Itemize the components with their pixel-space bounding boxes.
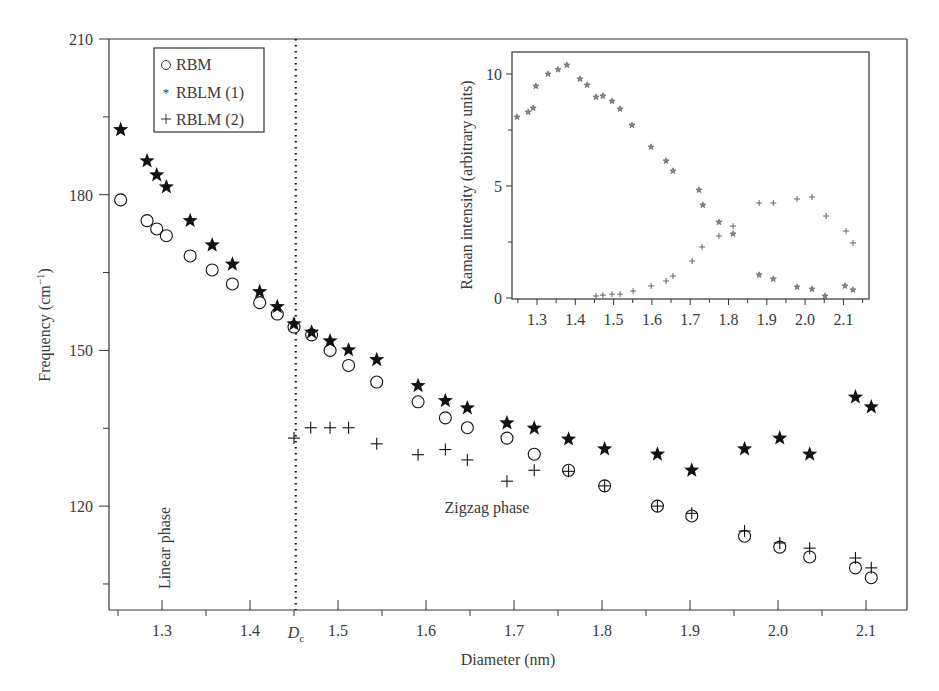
star-marker (527, 420, 542, 434)
star-marker (183, 213, 198, 227)
star-marker (650, 446, 665, 460)
circle-marker (412, 396, 424, 408)
inset-x-tick-label: 1.7 (680, 311, 700, 328)
legend-label-rblm1: RBLM (1) (176, 84, 244, 102)
circle-marker (206, 264, 218, 276)
star-marker (802, 446, 817, 460)
chart-canvas: 1.31.41.51.61.71.81.92.02.1120150180210 … (0, 0, 939, 691)
circle-marker (461, 422, 473, 434)
x-tick-label: 1.8 (592, 622, 612, 639)
plus-marker (501, 475, 513, 487)
x-tick-label: 1.4 (240, 622, 260, 639)
x-axis-label: Diameter (nm) (461, 651, 556, 669)
circle-marker (501, 432, 513, 444)
star-marker (597, 441, 612, 455)
inset-y-tick-label: 10 (486, 66, 502, 83)
y-axis-label: Frequency (cm−1) (34, 268, 54, 381)
star-marker (113, 122, 128, 136)
figure: 1.31.41.51.61.71.81.92.02.1120150180210 … (0, 0, 939, 691)
plus-marker (849, 552, 861, 564)
plus-marker (439, 444, 451, 456)
inset-y-tick-label: 0 (494, 290, 502, 307)
star-marker (322, 333, 337, 347)
y-tick-label: 210 (69, 31, 93, 48)
star-marker (438, 393, 453, 407)
star-marker (848, 389, 863, 403)
star-marker (139, 153, 154, 167)
dc-label-subscript: c (299, 632, 304, 644)
circle-marker (343, 359, 355, 371)
x-tick-label: 1.7 (504, 622, 524, 639)
y-axis-label-close: ) (36, 268, 54, 273)
star-marker (369, 352, 384, 366)
plus-marker (343, 422, 355, 434)
circle-marker (226, 278, 238, 290)
circle-marker (115, 194, 127, 206)
plus-marker (461, 454, 473, 466)
x-tick-label: 1.5 (328, 622, 348, 639)
inset-x-tick-label: 2.1 (833, 311, 853, 328)
plus-marker (774, 537, 786, 549)
plus-marker (324, 422, 336, 434)
plus-marker (686, 507, 698, 519)
linear-phase-label: Linear phase (156, 507, 174, 589)
x-tick-label: 1.3 (152, 622, 172, 639)
y-tick-label: 120 (69, 498, 93, 515)
circle-marker (528, 448, 540, 460)
star-marker (561, 431, 576, 445)
dc-label-d: D (287, 624, 300, 641)
star-marker (737, 441, 752, 455)
star-marker (772, 430, 787, 444)
y-tick-label: 150 (69, 342, 93, 359)
legend: RBM * RBLM (1) RBLM (2) (154, 48, 264, 132)
circle-marker (439, 412, 451, 424)
plus-marker (371, 438, 383, 450)
star-marker (864, 399, 879, 413)
circle-marker (371, 376, 383, 388)
inset-x-tick-label: 1.9 (757, 311, 777, 328)
star-marker (149, 167, 164, 181)
star-marker (205, 237, 220, 251)
plus-marker (865, 562, 877, 574)
inset-x-tick-label: 1.3 (527, 311, 547, 328)
star-marker (410, 378, 425, 392)
star-marker (684, 462, 699, 476)
x-tick-label: 1.9 (680, 622, 700, 639)
plus-marker (563, 465, 575, 477)
circle-marker (141, 215, 153, 227)
dc-label: Dc (287, 624, 305, 644)
series-rblm-2 (288, 422, 877, 574)
legend-star-icon: * (163, 85, 170, 100)
star-marker (341, 342, 356, 356)
y-axis-label-superscript: −1 (34, 274, 46, 286)
plus-marker (528, 464, 540, 476)
plus-marker (305, 422, 317, 434)
legend-label-rbm: RBM (176, 56, 212, 73)
circle-marker (160, 230, 172, 242)
y-axis-label-text: Frequency (cm (36, 285, 54, 382)
legend-label-rblm2: RBLM (2) (176, 111, 244, 129)
y-tick-label: 180 (69, 187, 93, 204)
plus-marker (288, 432, 300, 444)
star-marker (225, 256, 240, 270)
star-marker (460, 400, 475, 414)
star-marker (499, 415, 514, 429)
plus-marker (412, 449, 424, 461)
inset-y-axis-label: Raman intensity (arbitrary units) (458, 80, 476, 289)
circle-marker (184, 250, 196, 262)
inset-x-tick-label: 1.5 (604, 311, 624, 328)
star-marker (252, 284, 267, 298)
inset-x-tick-label: 1.8 (719, 311, 739, 328)
inset-x-tick-label: 1.6 (642, 311, 662, 328)
inset-frame (512, 52, 869, 299)
x-tick-label: 2.1 (856, 622, 876, 639)
inset-x-tick-label: 1.4 (565, 311, 585, 328)
x-tick-label: 1.6 (416, 622, 436, 639)
circle-marker (254, 297, 266, 309)
plus-marker (739, 525, 751, 537)
x-tick-label: 2.0 (768, 622, 788, 639)
inset-y-tick-label: 5 (494, 178, 502, 195)
inset-x-tick-label: 2.0 (795, 311, 815, 328)
zigzag-phase-label: Zigzag phase (445, 499, 530, 517)
